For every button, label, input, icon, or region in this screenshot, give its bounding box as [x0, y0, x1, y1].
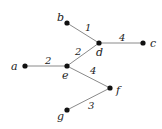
node-label-c: c — [150, 37, 156, 50]
edge-weight-e-d: 2 — [74, 46, 81, 57]
node-label-b: b — [57, 11, 64, 24]
edge-weight-b-d: 1 — [85, 22, 91, 33]
edge-e-d — [67, 43, 99, 66]
node-label-f: f — [115, 84, 122, 97]
edge-weight-e-f: 4 — [89, 65, 96, 76]
edge-b-d — [67, 23, 99, 43]
edge-weight-a-e: 2 — [44, 55, 51, 66]
node-f — [107, 85, 112, 90]
node-label-a: a — [11, 60, 18, 73]
node-labels-layer: abcdefg — [11, 11, 156, 123]
node-g — [64, 107, 69, 112]
node-e — [64, 63, 69, 68]
node-a — [22, 63, 27, 68]
node-d — [96, 40, 101, 45]
node-c — [140, 40, 145, 45]
edge-weight-d-c: 4 — [118, 32, 125, 43]
node-label-e: e — [62, 69, 69, 82]
node-label-d: d — [96, 46, 103, 59]
edge-weight-g-f: 3 — [88, 100, 94, 111]
node-b — [64, 20, 69, 25]
node-label-g: g — [57, 110, 64, 123]
tree-diagram: 142243 abcdefg — [0, 0, 162, 129]
edge-e-f — [67, 66, 110, 88]
